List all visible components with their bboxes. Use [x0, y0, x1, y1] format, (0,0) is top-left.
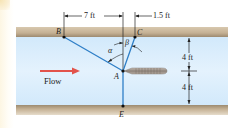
diagram-canvas: B C A E α β 7 ft 1.5 ft 4 ft 4 ft Flow — [0, 0, 241, 128]
label-C: C — [137, 29, 142, 37]
dimension-1-5ft: 1.5 ft — [153, 12, 170, 20]
top-wall — [16, 27, 228, 37]
diagram-graphics — [0, 0, 241, 128]
label-beta: β — [125, 39, 129, 47]
flow-label: Flow — [44, 77, 61, 86]
label-alpha: α — [108, 47, 112, 55]
label-E: E — [119, 111, 124, 119]
dimension-4ft-upper: 4 ft — [182, 54, 193, 62]
dimension-4ft-lower: 4 ft — [182, 84, 193, 92]
label-B: B — [56, 28, 61, 36]
point-E — [121, 104, 124, 107]
point-A — [121, 69, 124, 72]
probe-body — [124, 68, 167, 74]
point-B — [62, 35, 65, 38]
label-A: A — [114, 73, 119, 81]
dimension-7ft: 7 ft — [84, 12, 95, 20]
